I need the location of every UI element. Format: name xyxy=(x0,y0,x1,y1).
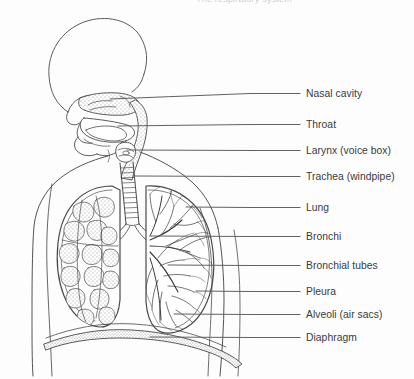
label-larynx: Larynx (voice box) xyxy=(306,145,391,156)
label-bronchi: Bronchi xyxy=(306,231,341,242)
label-bronchial-tubes: Bronchial tubes xyxy=(306,260,378,271)
label-diaphragm: Diaphragm xyxy=(306,332,357,343)
label-nasal-cavity: Nasal cavity xyxy=(306,88,362,99)
label-trachea: Trachea (windpipe) xyxy=(306,171,395,182)
label-pleura: Pleura xyxy=(306,286,336,297)
label-alveoli: Alveoli (air sacs) xyxy=(306,309,382,320)
label-throat: Throat xyxy=(306,119,336,130)
label-lung: Lung xyxy=(306,202,329,213)
label-list: Nasal cavityThroatLarynx (voice box)Trac… xyxy=(0,0,414,379)
respiratory-system-figure: The respiratory system xyxy=(0,0,414,379)
